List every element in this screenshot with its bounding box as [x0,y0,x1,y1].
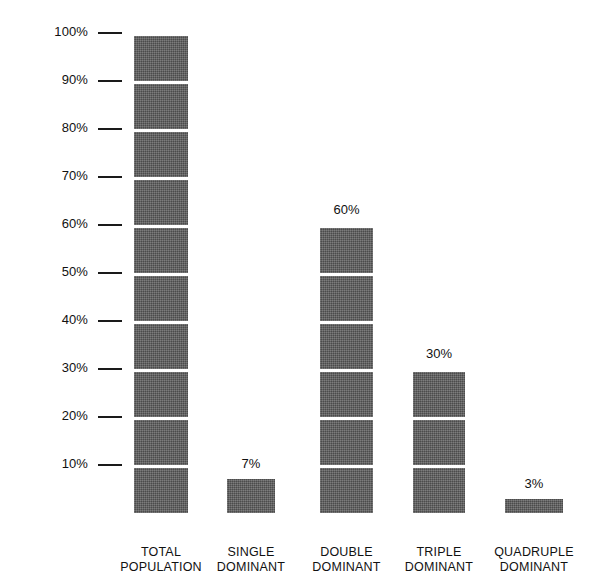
bar-segment [320,468,373,513]
bar-segment [505,499,563,513]
bar-segment [413,420,465,465]
category-label-line1: SINGLE [227,545,274,559]
bar-segment [134,84,188,129]
bar-stack [134,36,188,513]
category-label-line2: DOMINANT [494,560,574,575]
bar-stack [320,228,373,513]
category-label-line2: DOMINANT [217,560,285,575]
category-label: TOTALPOPULATION [120,545,202,575]
bar-segment [134,228,188,273]
bar-segment [413,372,465,417]
bar-segment [134,468,188,513]
bar-segment [134,372,188,417]
category-label-line1: TOTAL [141,545,181,559]
bar-column[interactable]: 60%DOUBLEDOMINANT [320,0,373,583]
bar-value-label: 30% [413,346,465,361]
bar-stack [413,372,465,513]
bar-value-label: 60% [320,202,373,217]
category-label: QUADRUPLEDOMINANT [494,545,574,575]
bar-segment [134,324,188,369]
category-label-line2: POPULATION [120,560,202,575]
bar-value-label: 7% [227,456,275,471]
bar-segment [227,479,275,513]
bar-segment [134,420,188,465]
bar-column[interactable]: TOTALPOPULATION [134,0,188,583]
plot-area: TOTALPOPULATION7%SINGLEDOMINANT60%DOUBLE… [0,0,591,583]
category-label-line2: DOMINANT [405,560,473,575]
bar-segment [320,324,373,369]
bar-column[interactable]: 30%TRIPLEDOMINANT [413,0,465,583]
category-label-line1: QUADRUPLE [494,545,574,559]
bar-column[interactable]: 3%QUADRUPLEDOMINANT [505,0,563,583]
bar-segment [320,276,373,321]
bar-segment [134,180,188,225]
bar-value-label: 3% [505,476,563,491]
bar-chart: 100%90%80%70%60%50%40%30%20%10% TOTALPOP… [0,0,591,583]
bar-segment [320,420,373,465]
bar-segment [134,276,188,321]
bar-segment [320,372,373,417]
bar-column[interactable]: 7%SINGLEDOMINANT [227,0,275,583]
category-label: DOUBLEDOMINANT [312,545,380,575]
bar-segment [134,132,188,177]
bar-segment [320,228,373,273]
category-label-line2: DOMINANT [312,560,380,575]
bar-segment [413,468,465,513]
bar-segment [134,36,188,81]
category-label: TRIPLEDOMINANT [405,545,473,575]
bar-stack [227,479,275,513]
category-label: SINGLEDOMINANT [217,545,285,575]
category-label-line1: TRIPLE [417,545,462,559]
bar-stack [505,499,563,513]
category-label-line1: DOUBLE [320,545,373,559]
